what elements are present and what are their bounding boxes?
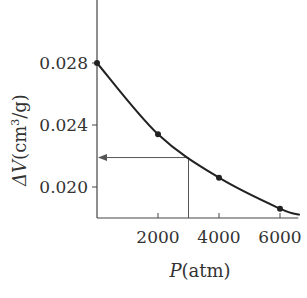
x-tick-label: 4000 <box>197 227 240 247</box>
y-axis-title: ΔV(cm3/g) <box>9 94 30 187</box>
y-ticks: 0.0200.0240.028 <box>39 53 97 197</box>
axes <box>97 0 298 218</box>
arrow-head-icon <box>98 154 107 161</box>
x-axis-title: P(atm) <box>168 260 230 281</box>
y-axis-var: ΔV <box>9 158 30 187</box>
y-axis-unit-sup: 3 <box>9 119 22 126</box>
y-tick-label: 0.024 <box>39 115 88 135</box>
y-tick-label: 0.028 <box>39 53 88 73</box>
y-axis-unit-post: /g) <box>9 94 30 119</box>
guide-lines <box>98 154 189 218</box>
x-axis-unit: (atm) <box>182 260 231 281</box>
x-tick-label: 6000 <box>258 227 301 247</box>
data-point <box>94 60 100 66</box>
series-curve <box>97 63 300 215</box>
chart: 200040006000 0.0200.0240.028 P(atm) ΔV(c… <box>0 0 307 298</box>
y-tick-label: 0.020 <box>39 177 88 197</box>
data-point <box>277 206 283 212</box>
data-point <box>216 175 222 181</box>
x-axis-var: P <box>168 260 182 281</box>
data-point <box>155 131 161 137</box>
y-axis-unit-pre: (cm <box>9 126 30 160</box>
x-tick-label: 2000 <box>136 227 179 247</box>
